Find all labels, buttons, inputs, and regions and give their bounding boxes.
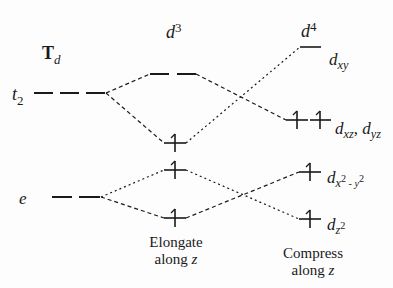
correlation-lines-td-d3 [106,74,164,143]
d4-title-main: d [301,21,310,41]
elongate-line1: Elongate [138,234,214,251]
d4-title: d4 [301,21,316,40]
elongate-line2: along z [138,251,214,268]
crystal-field-diagram: Td d3 d4 t2 e dxy dxz, dyz dx2 - y2 dz2 … [0,0,393,288]
dz2-sup: 2 [340,220,345,231]
dxz-main: d [335,119,344,138]
d3-title: d3 [166,22,181,41]
d3-level-218 [164,209,186,227]
dxy-main: d [329,50,338,69]
dxz-dyz-sep: , [354,119,363,138]
dxz-dyz-label: dxz, dyz [335,120,381,141]
dyz-main: d [362,119,371,138]
dxz-sub: xz [344,127,354,141]
elongate-z: z [192,251,198,267]
e-label-main: e [19,189,27,208]
correlation-lines-d3-d4 [186,47,300,219]
d4-dz2-level [299,210,321,228]
dxy-sub: xy [338,58,349,72]
t2-label-sub: 2 [17,93,23,108]
d4-dx2y2-level [299,163,321,181]
d3-level-170 [164,161,186,179]
dyz-sub: yz [371,127,381,141]
d3-title-main: d [166,22,175,42]
dx2y2-sup-2: 2 [359,173,364,184]
d3-title-sup: 3 [175,20,181,35]
elongate-along: along [155,251,192,267]
td-title-main: T [42,43,54,63]
dz2-main: d [327,215,336,234]
d4-title-sup: 4 [310,19,316,34]
dx2y2-main: d [327,168,336,187]
compress-line2: along z [275,262,351,279]
compress-along: along [292,262,329,278]
td-title: Td [42,44,61,66]
dx2y2-sub-y: - y [346,178,359,189]
dxy-label: dxy [329,51,348,72]
dx2-y2-label: dx2 - y2 [327,169,364,190]
compress-caption: Compress along z [275,245,351,279]
d3-level-143 [164,134,186,152]
t2-label: t2 [12,85,24,107]
dz2-label: dz2 [327,216,345,237]
compress-z: z [329,262,335,278]
compress-line1: Compress [275,245,351,262]
d4-dxz-dyz-level [286,111,331,129]
e-label: e [19,190,27,207]
td-title-sub: d [54,52,60,67]
correlation-lines-e-d3 [101,170,164,218]
elongate-caption: Elongate along z [138,234,214,268]
